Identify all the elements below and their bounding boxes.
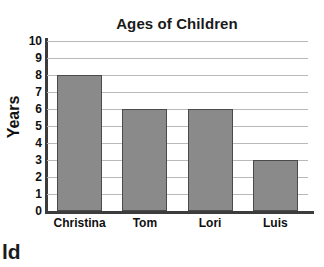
bar-christina xyxy=(57,75,102,211)
y-tick-0: 0 xyxy=(16,205,42,217)
x-tick-lori: Lori xyxy=(178,216,243,230)
x-axis-tick-labels: ChristinaTomLoriLuis xyxy=(47,216,308,234)
y-tick-9: 9 xyxy=(16,52,42,64)
plot-area xyxy=(47,41,308,211)
y-axis-tick-labels: 109876543210 xyxy=(12,41,42,211)
chart-title: Ages of Children xyxy=(46,15,308,32)
bar-chart-figure: Ages of Children Years 109876543210 Chri… xyxy=(0,0,324,267)
y-tick-6: 6 xyxy=(16,103,42,115)
x-tick-luis: Luis xyxy=(243,216,308,230)
y-tick-10: 10 xyxy=(16,35,42,47)
bar-tom xyxy=(122,109,167,211)
x-axis-spine xyxy=(45,211,314,214)
bar-lori xyxy=(188,109,233,211)
bar-series xyxy=(47,41,308,211)
y-tick-7: 7 xyxy=(16,86,42,98)
x-tick-christina: Christina xyxy=(47,216,112,230)
y-tick-2: 2 xyxy=(16,171,42,183)
bar-luis xyxy=(253,160,298,211)
y-tick-4: 4 xyxy=(16,137,42,149)
y-tick-1: 1 xyxy=(16,188,42,200)
clipped-page-text: ld xyxy=(2,241,21,261)
y-tick-3: 3 xyxy=(16,154,42,166)
y-tick-8: 8 xyxy=(16,69,42,81)
y-tick-5: 5 xyxy=(16,120,42,132)
x-tick-tom: Tom xyxy=(112,216,177,230)
